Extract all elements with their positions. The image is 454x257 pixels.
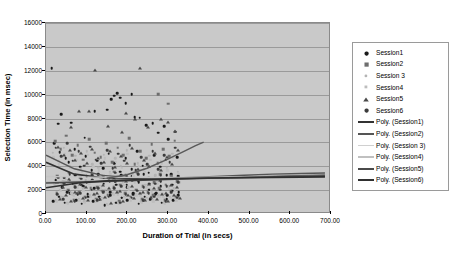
legend-item[interactable]: Session2	[356, 59, 445, 71]
legend-label: Poly. (Session1)	[376, 118, 424, 126]
y-axis-ticks: 0200040006000800010000120001400016000	[0, 22, 42, 213]
legend-item[interactable]: Poly. (Session 3)	[356, 140, 445, 152]
y-tick-label: 12000	[0, 66, 42, 73]
y-tick-label: 10000	[0, 90, 42, 97]
x-tick-mark	[86, 211, 87, 214]
legend-item[interactable]: Session 3	[356, 70, 445, 82]
x-tick-mark	[330, 211, 331, 214]
legend-item[interactable]: Poly. (Session6)	[356, 175, 445, 187]
legend-label: Session4	[376, 84, 403, 92]
y-tick-label: 14000	[0, 42, 42, 49]
x-tick-mark	[249, 211, 250, 214]
legend-label: Session1	[376, 49, 403, 57]
legend-item[interactable]: Session6	[356, 105, 445, 117]
legend-label: Session5	[376, 95, 403, 103]
legend-marker	[364, 74, 367, 77]
legend-marker	[364, 51, 368, 55]
x-tick-label: 500.00	[239, 217, 259, 225]
legend-line-swatch	[356, 133, 376, 135]
legend-line-swatch	[356, 145, 376, 146]
x-axis-ticks: 0.00100.00200.00300.00400.00500.00600.00…	[45, 215, 330, 227]
x-tick-mark	[208, 211, 209, 214]
x-tick-label: 400.00	[198, 217, 218, 225]
legend-line-swatch	[356, 168, 376, 170]
legend-marker	[363, 97, 369, 101]
legend-marker-icon	[356, 63, 376, 66]
trendline	[46, 155, 325, 178]
x-tick-label: 600.00	[279, 217, 299, 225]
legend-item[interactable]: Session5	[356, 93, 445, 105]
legend-line	[358, 168, 374, 170]
y-tick-label: 8000	[0, 114, 42, 121]
legend-marker-icon	[356, 109, 376, 112]
y-tick-label: 0	[0, 210, 42, 217]
legend-line	[358, 156, 374, 157]
trendlines-layer	[46, 23, 329, 213]
legend-label: Session6	[376, 107, 403, 115]
legend-label: Poly. (Session2)	[376, 130, 424, 138]
y-tick-label: 16000	[0, 19, 42, 26]
x-tick-mark	[45, 211, 46, 214]
legend-item[interactable]: Poly. (Session5)	[356, 163, 445, 175]
legend-item[interactable]: Poly. (Session2)	[356, 128, 445, 140]
trendline	[107, 142, 204, 178]
legend-item[interactable]: Poly. (Session1)	[356, 117, 445, 129]
x-tick-label: 0.00	[39, 217, 52, 225]
legend-label: Poly. (Session5)	[376, 165, 424, 173]
legend-label: Session2	[376, 60, 403, 68]
y-tick-label: 4000	[0, 162, 42, 169]
legend-item[interactable]: Poly. (Session4)	[356, 151, 445, 163]
legend-marker	[364, 109, 368, 113]
legend-line	[358, 179, 374, 181]
legend-line	[358, 121, 374, 123]
y-tick-label: 6000	[0, 138, 42, 145]
x-axis-title: Duration of Trial (in secs)	[45, 231, 330, 240]
legend-label: Poly. (Session6)	[376, 176, 424, 184]
x-tick-label: 100.00	[76, 217, 96, 225]
chart-legend: Session1Session2Session 3Session4Session…	[352, 42, 449, 191]
legend-label: Poly. (Session 3)	[376, 142, 425, 150]
legend-line-swatch	[356, 179, 376, 181]
trendline	[46, 177, 325, 188]
x-tick-label: 200.00	[116, 217, 136, 225]
legend-marker-icon	[356, 98, 376, 101]
legend-line-swatch	[356, 121, 376, 123]
legend-item[interactable]: Session1	[356, 47, 445, 59]
x-tick-mark	[126, 211, 127, 214]
legend-line	[358, 133, 374, 135]
y-tick-label: 2000	[0, 186, 42, 193]
scatter-chart: Selection Time (in msec) 020004000600080…	[0, 0, 454, 257]
legend-marker-icon	[356, 86, 376, 88]
x-tick-label: 300.00	[157, 217, 177, 225]
legend-marker	[364, 63, 368, 67]
x-tick-label: 700.00	[320, 217, 340, 225]
legend-item[interactable]: Session4	[356, 82, 445, 94]
plot-area	[45, 22, 330, 213]
legend-marker-icon	[356, 75, 376, 77]
legend-line-swatch	[356, 156, 376, 157]
x-tick-mark	[167, 211, 168, 214]
legend-label: Session 3	[376, 72, 405, 80]
legend-line	[358, 145, 374, 146]
legend-label: Poly. (Session4)	[376, 153, 424, 161]
legend-marker-icon	[356, 52, 376, 55]
x-tick-mark	[289, 211, 290, 214]
legend-marker	[364, 86, 367, 89]
